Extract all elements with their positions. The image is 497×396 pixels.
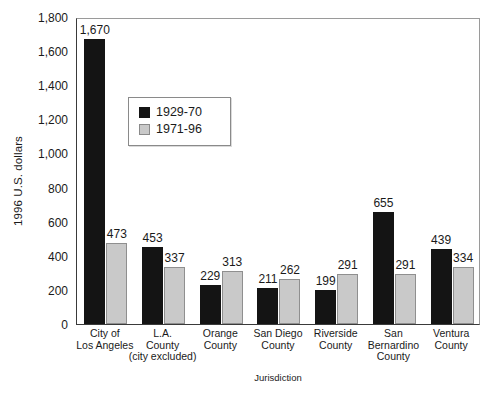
bar-value-label: 334 bbox=[447, 252, 480, 264]
legend-item-label: 1971-96 bbox=[156, 123, 202, 136]
bar-value-label: 337 bbox=[158, 252, 191, 264]
bar-series2 bbox=[106, 243, 127, 324]
bar-value-label: 453 bbox=[136, 232, 169, 244]
bar-series1 bbox=[200, 285, 221, 324]
bar-series1 bbox=[84, 39, 105, 324]
bar-value-label: 291 bbox=[389, 259, 422, 271]
gray-square-swatch bbox=[139, 124, 150, 135]
x-category-label-line: (city excluded) bbox=[122, 351, 204, 363]
bar-group: 655291 bbox=[366, 19, 424, 324]
chart-legend: 1929-701971-96 bbox=[128, 97, 231, 146]
bar-chart: 1996 U.S. dollars 02004006008001,0001,20… bbox=[0, 0, 497, 396]
bar-value-label: 313 bbox=[216, 256, 249, 268]
x-axis-category-labels: City ofLos AngelesL.A.County(city exclud… bbox=[76, 328, 480, 374]
y-tick-label: 600 bbox=[48, 217, 68, 229]
y-tick-label: 800 bbox=[48, 183, 68, 195]
legend-item[interactable]: 1971-96 bbox=[139, 121, 222, 138]
bar-value-label: 439 bbox=[425, 234, 458, 246]
x-category-label: VenturaCounty bbox=[410, 328, 492, 351]
bar-series2 bbox=[279, 279, 300, 324]
bar-group: 229313 bbox=[192, 19, 250, 324]
x-axis-title: Jurisdiction bbox=[76, 372, 480, 383]
legend-item[interactable]: 1929-70 bbox=[139, 104, 222, 121]
bar-value-label: 1,670 bbox=[78, 24, 111, 36]
y-tick-label: 200 bbox=[48, 285, 68, 297]
bar-series2 bbox=[453, 267, 474, 324]
y-tick-label: 1,400 bbox=[38, 80, 68, 92]
x-category-label-line: Ventura bbox=[410, 328, 492, 340]
y-tick-label: 400 bbox=[48, 251, 68, 263]
y-axis-tick-labels: 02004006008001,0001,2001,4001,6001,800 bbox=[0, 0, 72, 396]
black-square-swatch bbox=[139, 107, 150, 118]
bar-series2 bbox=[222, 271, 243, 324]
bar-group: 199291 bbox=[308, 19, 366, 324]
bar-series2 bbox=[337, 274, 358, 324]
plot-area: 1,67047345333722931321126219929165529143… bbox=[76, 18, 480, 325]
bar-series2 bbox=[164, 267, 185, 324]
x-category-label-line: County bbox=[353, 351, 435, 363]
bars-layer: 1,67047345333722931321126219929165529143… bbox=[77, 19, 479, 324]
bar-group: 453337 bbox=[135, 19, 193, 324]
bar-series1 bbox=[257, 288, 278, 324]
y-tick-label: 1,800 bbox=[38, 12, 68, 24]
y-tick-label: 1,200 bbox=[38, 114, 68, 126]
bar-group: 439334 bbox=[423, 19, 481, 324]
bar-group: 1,670473 bbox=[77, 19, 135, 324]
y-tick-label: 1,600 bbox=[38, 46, 68, 58]
bar-series1 bbox=[315, 290, 336, 324]
y-tick-label: 1,000 bbox=[38, 148, 68, 160]
bar-value-label: 473 bbox=[100, 228, 133, 240]
bar-value-label: 655 bbox=[367, 197, 400, 209]
x-category-label-line: County bbox=[410, 340, 492, 352]
legend-item-label: 1929-70 bbox=[156, 106, 202, 119]
bar-group: 211262 bbox=[250, 19, 308, 324]
bar-value-label: 291 bbox=[331, 259, 364, 271]
bar-value-label: 262 bbox=[273, 264, 306, 276]
bar-series2 bbox=[395, 274, 416, 324]
